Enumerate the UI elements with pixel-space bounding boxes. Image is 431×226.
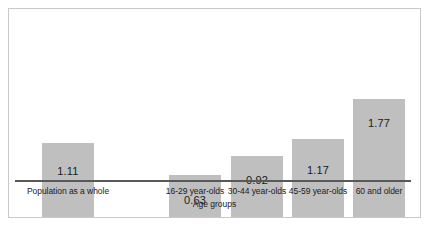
x-axis-line: [15, 180, 411, 182]
bar-value-60-and-older: 1.77: [353, 117, 405, 129]
x-tick-label-population-as-a-whole: Population as a whole: [13, 186, 123, 196]
x-tick-label-60-and-older: 60 and older: [349, 186, 409, 196]
bar-value-45-59-year-olds: 1.17: [292, 164, 344, 176]
x-tick-label-45-59-year-olds: 45-59 year-olds: [283, 186, 353, 196]
bar-chart-figure: 1.11 0.63 0.92 1.17 1.77 Population as a…: [8, 8, 421, 218]
x-tick-label-30-44-year-olds: 30-44 year-olds: [222, 186, 292, 196]
bar-value-population-as-a-whole: 1.11: [42, 165, 94, 177]
x-tick-label-16-29-year-olds: 16-29 year-olds: [160, 186, 230, 196]
x-axis-title: Age groups: [9, 199, 420, 209]
plot-area: 1.11 0.63 0.92 1.17 1.77 Population as a…: [9, 9, 420, 217]
